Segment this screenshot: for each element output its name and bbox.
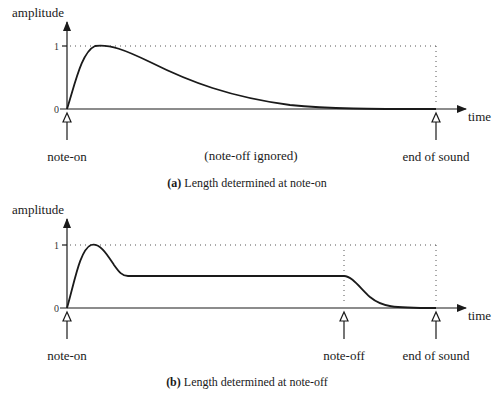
- svg-text:end of sound: end of sound: [402, 149, 470, 164]
- marker-note-on: note-on: [47, 113, 87, 164]
- panel-b: amplitude time 1 0 note-on note-off end …: [12, 202, 491, 389]
- y-axis-label: amplitude: [12, 202, 64, 217]
- svg-text:end of sound: end of sound: [402, 348, 470, 363]
- marker-end-of-sound: end of sound: [402, 312, 470, 363]
- envelope-curve: [67, 245, 436, 308]
- panel-a: amplitude time 1 0 note-on (note-off ign…: [12, 5, 491, 190]
- caption-a: (a) Length determined at note-on: [167, 176, 326, 190]
- marker-note-off: note-off: [323, 312, 365, 363]
- tick-zero-label: 0: [54, 303, 59, 314]
- tick-one-label: 1: [54, 41, 59, 52]
- note-off-ignored-label: (note-off ignored): [204, 148, 297, 163]
- tick-one-label: 1: [54, 240, 59, 251]
- y-axis-label: amplitude: [12, 5, 64, 20]
- envelope-curve: [67, 46, 436, 109]
- envelope-diagram: amplitude time 1 0 note-on (note-off ign…: [0, 0, 494, 397]
- marker-end-of-sound: end of sound: [402, 113, 470, 164]
- caption-b: (b) Length determined at note-off: [166, 375, 328, 389]
- x-axis-label: time: [468, 109, 491, 124]
- svg-text:note-on: note-on: [47, 149, 87, 164]
- tick-zero-label: 0: [54, 104, 59, 115]
- svg-text:note-on: note-on: [47, 348, 87, 363]
- x-axis-label: time: [468, 308, 491, 323]
- svg-text:note-off: note-off: [323, 348, 365, 363]
- marker-note-on: note-on: [47, 312, 87, 363]
